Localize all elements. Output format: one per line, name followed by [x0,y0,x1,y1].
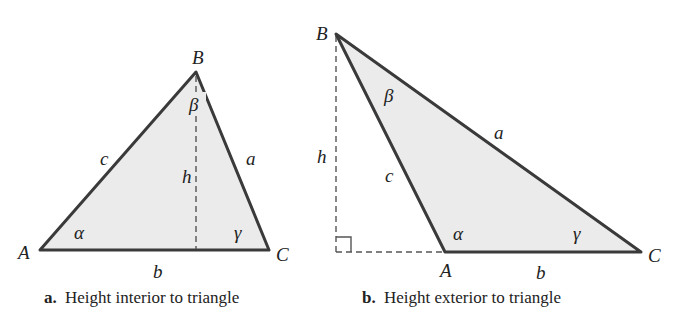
vertex-b-label: B [192,47,204,68]
caption-b: b. Height exterior to triangle [362,288,561,307]
angle-gamma-label: γ [573,223,581,244]
angle-alpha-label: α [74,222,85,243]
caption-b-text: Height exterior to triangle [384,288,561,307]
angle-beta-label: β [383,85,394,106]
figure-a: A B C c a b h α β γ [16,47,289,282]
angle-beta-label: β [188,94,199,115]
height-label: h [182,166,192,187]
side-a-label: a [494,122,504,143]
side-c-label: c [100,148,109,169]
side-a-label: a [246,148,256,169]
vertex-c-label: C [648,245,661,266]
figure-b: B A C c a b h α β γ [316,23,661,283]
side-b-label: b [153,261,163,282]
height-label: h [317,146,327,167]
caption-b-prefix: b. [362,288,376,307]
angle-gamma-label: γ [234,222,242,243]
vertex-a-label: A [438,260,452,281]
side-c-label: c [385,165,394,186]
caption-a-text: Height interior to triangle [65,288,239,307]
caption-a-prefix: a. [44,288,57,307]
vertex-c-label: C [276,244,289,265]
vertex-b-label: B [316,23,328,44]
side-b-label: b [536,262,546,283]
triangle-height-diagram: A B C c a b h α β γ B A C c a b h α β γ … [0,0,674,333]
caption-a: a. Height interior to triangle [44,288,239,307]
triangle-b [336,34,641,252]
vertex-a-label: A [16,242,30,263]
right-angle-marker [336,237,351,252]
angle-alpha-label: α [453,223,464,244]
